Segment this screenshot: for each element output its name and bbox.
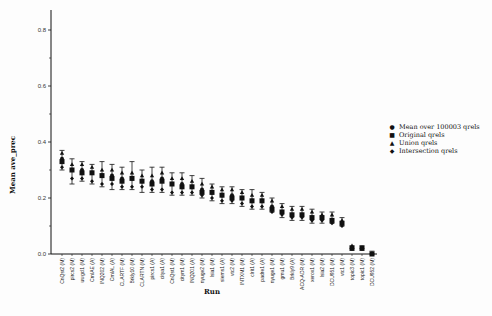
run-point-group xyxy=(210,184,215,201)
x-tick-label: CrnlAE (A) xyxy=(89,258,95,282)
diamond-marker-icon: ◆ xyxy=(388,147,396,155)
legend-label: Mean over 100003 qrels xyxy=(399,123,480,131)
x-tick-label: citya1 (A) xyxy=(159,258,165,279)
x-tick-label: CnQst2 (M) xyxy=(59,258,65,284)
x-tick-label: CLARTN (M) xyxy=(139,258,145,287)
legend-item-original: ■ Original qrels xyxy=(388,131,480,139)
run-point-group xyxy=(260,192,265,209)
x-tick-label: INQ201 (A) xyxy=(189,258,195,284)
run-point-group xyxy=(60,150,65,170)
run-point-group xyxy=(280,204,285,218)
x-tick-label: topic3 (M) xyxy=(349,258,355,281)
x-axis-title: Run xyxy=(204,287,220,296)
run-point-group xyxy=(110,164,115,189)
run-point-group xyxy=(180,173,185,195)
run-point-group xyxy=(340,218,345,228)
x-tick-label: CLARTF (M) xyxy=(119,258,125,287)
run-point-group xyxy=(270,198,275,214)
legend-label: Intersection qrels xyxy=(399,147,458,155)
x-tick-label: CnQst1 (M) xyxy=(169,258,175,284)
y-tick-label: 0.8 xyxy=(38,27,47,33)
run-point-group xyxy=(70,159,75,184)
x-tick-label: pircs2 (M) xyxy=(69,258,75,281)
run-point-group xyxy=(130,162,135,190)
x-axis: CnQst2 (M)pircs2 (M)uwgcl1 (M)CrnlAE (A)… xyxy=(51,254,377,290)
y-axis-title: Mean ave_prec xyxy=(8,136,17,194)
run-point-group xyxy=(160,167,165,192)
x-tick-label: xerox1 (M) xyxy=(309,258,315,282)
run-point-group xyxy=(370,251,375,256)
y-tick-label: 0.0 xyxy=(38,251,47,257)
x-tick-label: lsia2 (M) xyxy=(319,258,325,278)
x-tick-label: ACQ-ADR (M) xyxy=(299,258,305,290)
x-tick-label: Brkly9 (A) xyxy=(289,258,295,280)
run-point-group xyxy=(140,170,145,192)
x-tick-label: gmu1 (M) xyxy=(279,258,285,280)
run-point-group xyxy=(300,206,305,220)
run-point-group xyxy=(250,190,255,210)
y-tick-label: 0.4 xyxy=(38,139,47,145)
data-points xyxy=(60,150,375,256)
run-point-group xyxy=(90,164,95,184)
square-marker-icon: ■ xyxy=(388,131,396,139)
x-tick-label: DCU952 (M) xyxy=(369,258,375,286)
triangle-marker-icon: ▲ xyxy=(388,139,396,147)
y-axis: 0.00.20.40.60.8 xyxy=(38,10,51,257)
legend-label: Union qrels xyxy=(399,139,437,147)
y-tick-label: 0.2 xyxy=(38,195,47,201)
run-point-group xyxy=(80,162,85,182)
x-tick-label: uwgcl1 (M) xyxy=(79,258,85,283)
x-tick-label: INTXM1 (M) xyxy=(239,258,245,286)
x-tick-label: siems1 (A) xyxy=(219,258,225,282)
run-point-group xyxy=(320,212,325,223)
run-point-group xyxy=(120,167,125,189)
x-tick-label: citym1 (M) xyxy=(179,258,185,282)
x-tick-label: vtc2 (M) xyxy=(229,258,235,276)
run-point-group xyxy=(360,246,365,251)
run-point-group xyxy=(200,178,205,198)
run-point-group xyxy=(290,206,295,220)
x-tick-label: clrit1 (A) xyxy=(249,258,255,277)
run-point-group xyxy=(150,167,155,192)
x-tick-label: pircs1 (A) xyxy=(149,258,155,280)
x-tick-label: padre1 (A) xyxy=(259,258,265,282)
x-tick-label: nyuge2 (M) xyxy=(199,258,205,284)
y-tick-label: 0.6 xyxy=(38,83,47,89)
x-tick-label: nyuge1 (M) xyxy=(269,258,275,284)
run-point-group xyxy=(330,212,335,225)
x-tick-label: CrnlAL (A) xyxy=(109,258,115,281)
x-tick-label: Brkly10 (M) xyxy=(129,258,135,284)
legend-label: Original qrels xyxy=(399,131,445,139)
chart-canvas: 0.00.20.40.60.8 CnQst2 (M)pircs2 (M)uwgc… xyxy=(0,0,492,316)
legend-item-intersection: ◆ Intersection qrels xyxy=(388,147,480,155)
legend-item-union: ▲ Union qrels xyxy=(388,139,480,147)
run-point-group xyxy=(310,209,315,223)
run-point-group xyxy=(350,243,355,251)
run-point-group xyxy=(230,187,235,204)
legend: ● Mean over 100003 qrels ■ Original qrel… xyxy=(388,123,480,155)
x-tick-label: lsia1 (M) xyxy=(209,258,215,278)
run-point-group xyxy=(170,173,175,195)
x-tick-label: INQ202 (M) xyxy=(99,258,105,284)
run-point-group xyxy=(240,190,245,207)
circle-marker-icon: ● xyxy=(388,123,396,131)
x-tick-label: vtc1 (M) xyxy=(339,258,345,276)
legend-item-mean: ● Mean over 100003 qrels xyxy=(388,123,480,131)
x-tick-label: topic1 (M) xyxy=(359,258,365,281)
run-point-group xyxy=(100,162,105,187)
x-tick-label: DCU951 (M) xyxy=(329,258,335,286)
run-point-group xyxy=(220,187,225,204)
run-point-group xyxy=(190,176,195,196)
